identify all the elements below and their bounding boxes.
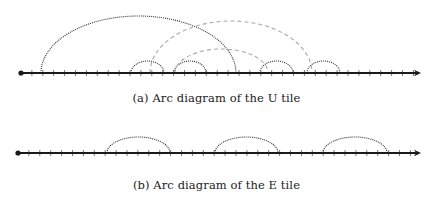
e-tile-arc-diagram xyxy=(15,137,421,156)
dashed-arc xyxy=(150,21,312,73)
axis-start-dot xyxy=(18,70,23,75)
axis-start-dot xyxy=(15,150,20,155)
dotted-arc xyxy=(260,61,293,73)
dotted-arc xyxy=(174,61,206,73)
caption-u-tile: (a) Arc diagram of the U tile xyxy=(0,91,433,105)
caption-e-tile: (b) Arc diagram of the E tile xyxy=(0,178,433,192)
dotted-arc xyxy=(131,61,164,73)
dotted-arc xyxy=(41,16,236,73)
u-tile-arc-diagram xyxy=(18,16,421,76)
